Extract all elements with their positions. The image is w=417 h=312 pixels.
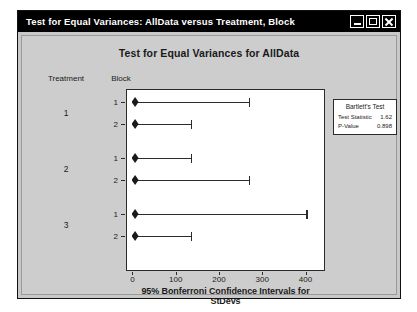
confidence-interval-upper-cap [191, 232, 192, 241]
confidence-interval-row [22, 208, 396, 220]
confidence-interval-point-marker [132, 153, 139, 163]
confidence-interval-point-marker [132, 119, 139, 129]
bartlett-stat-label: P-Value [338, 122, 359, 131]
bartlett-stat-row: P-Value0.898 [338, 122, 392, 131]
confidence-interval-line [135, 102, 249, 103]
confidence-interval-row [22, 152, 396, 164]
confidence-interval-line [135, 180, 249, 181]
x-axis-tick-label: 200 [204, 275, 234, 284]
window-title-bar[interactable]: Test for Equal Variances: AllData versus… [18, 11, 400, 32]
confidence-interval-line [135, 158, 191, 159]
minimize-icon [354, 23, 361, 25]
confidence-interval-upper-cap [249, 98, 250, 107]
window-controls [350, 15, 400, 28]
minimize-button[interactable] [350, 15, 364, 28]
bartlett-title: Bartlett's Test [338, 103, 392, 110]
treatment-group-label: 1 [28, 108, 104, 118]
confidence-interval-upper-cap [191, 154, 192, 163]
confidence-interval-row [22, 174, 396, 186]
x-axis-tick-label: 100 [161, 275, 191, 284]
close-button[interactable] [382, 15, 396, 28]
bartlett-rows: Test Statistic1.62P-Value0.898 [338, 113, 392, 130]
confidence-interval-point-marker [132, 175, 139, 185]
confidence-interval-upper-cap [249, 176, 250, 185]
bartlett-test-box: Bartlett's Test Test Statistic1.62P-Valu… [333, 99, 397, 135]
column-header-treatment: Treatment [28, 74, 104, 83]
x-axis-tick-label: 400 [291, 275, 321, 284]
confidence-interval-row [22, 230, 396, 242]
bartlett-stat-row: Test Statistic1.62 [338, 113, 392, 122]
x-axis-tick-label: 0 [117, 275, 147, 284]
column-header-block: Block [104, 74, 138, 83]
chart-title: Test for Equal Variances for AllData [22, 47, 396, 59]
confidence-interval-point-marker [132, 209, 139, 219]
treatment-group-label: 2 [28, 164, 104, 174]
bartlett-stat-value: 0.898 [377, 122, 392, 131]
confidence-interval-upper-cap [306, 210, 307, 219]
x-axis-title: 95% Bonferroni Confidence Intervals for … [126, 286, 325, 306]
confidence-interval-upper-cap [191, 120, 192, 129]
bartlett-stat-label: Test Statistic [338, 113, 372, 122]
confidence-interval-point-marker [132, 231, 139, 241]
maximize-button[interactable] [366, 15, 380, 28]
confidence-interval-line [135, 124, 191, 125]
application-window: Test for Equal Variances: AllData versus… [17, 10, 401, 299]
screenshot-root: Test for Equal Variances: AllData versus… [0, 0, 417, 312]
graph-client-area: Test for Equal Variances for AllData Tre… [21, 35, 397, 295]
maximize-icon [369, 18, 377, 25]
window-title: Test for Equal Variances: AllData versus… [26, 16, 350, 27]
confidence-interval-line [135, 214, 307, 215]
confidence-interval-line [135, 236, 191, 237]
confidence-interval-point-marker [132, 97, 139, 107]
x-axis-tick-label: 300 [247, 275, 277, 284]
treatment-group-label: 3 [28, 220, 104, 230]
bartlett-stat-value: 1.62 [380, 113, 392, 122]
